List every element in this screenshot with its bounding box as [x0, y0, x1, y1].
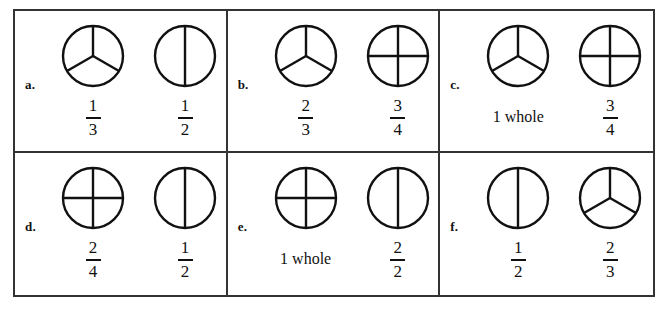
- fraction-numerator: 2: [603, 239, 618, 258]
- fraction-denominator: 4: [603, 120, 618, 139]
- fraction-figure-right: 12: [137, 165, 228, 281]
- fraction-circle-halves-icon: [470, 165, 566, 233]
- fraction-numerator: 3: [390, 97, 405, 116]
- problem-cell: a.1312: [15, 11, 228, 153]
- fraction-figure-right: 22: [350, 165, 441, 281]
- fraction-value: 23: [298, 97, 313, 139]
- figure-label: 23: [258, 97, 354, 139]
- fraction-value: 12: [511, 239, 526, 281]
- fraction-circle-halves-icon: [137, 165, 228, 233]
- fraction-figure-right: 34: [562, 23, 653, 139]
- fraction-figure-right: 23: [562, 165, 653, 281]
- fraction-value: 12: [178, 239, 193, 281]
- fraction-figure-left: 23: [258, 23, 354, 139]
- fraction-value: 23: [603, 239, 618, 281]
- problem-cell: d.2412: [15, 153, 228, 295]
- fraction-denominator: 2: [390, 262, 405, 281]
- fraction-bar: [511, 259, 526, 261]
- problem-cell: f.1223: [440, 153, 653, 295]
- fraction-numerator: 1: [86, 97, 101, 116]
- fraction-numerator: 2: [390, 239, 405, 258]
- fraction-bar: [178, 117, 193, 119]
- fraction-numerator: 2: [86, 239, 101, 258]
- fraction-circle-halves-icon: [137, 23, 228, 91]
- problem-cell: e.1 whole22: [228, 153, 441, 295]
- figure-label: 23: [562, 239, 653, 281]
- fraction-value: 22: [390, 239, 405, 281]
- figure-pair: 2334: [228, 11, 439, 151]
- figure-pair: 1 whole34: [440, 11, 653, 151]
- fraction-circle-thirds-icon: [258, 23, 354, 91]
- figure-pair: 2412: [15, 153, 226, 295]
- fraction-value: 34: [603, 97, 618, 139]
- fraction-denominator: 2: [178, 262, 193, 281]
- problem-cell: b.2334: [228, 11, 441, 153]
- figure-pair: 1312: [15, 11, 226, 151]
- fraction-numerator: 2: [298, 97, 313, 116]
- fraction-numerator: 3: [603, 97, 618, 116]
- whole-label-text: 1 whole: [493, 97, 544, 125]
- fraction-bar: [390, 117, 405, 119]
- fraction-circle-thirds-icon: [45, 23, 141, 91]
- figure-label: 22: [350, 239, 441, 281]
- fraction-bar: [298, 117, 313, 119]
- fraction-circle-quarters-icon: [45, 165, 141, 233]
- fraction-denominator: 4: [390, 120, 405, 139]
- figure-label: 1 whole: [258, 239, 354, 279]
- fraction-bar: [86, 259, 101, 261]
- fraction-numerator: 1: [178, 97, 193, 116]
- figure-label: 24: [45, 239, 141, 281]
- fraction-denominator: 2: [178, 120, 193, 139]
- fraction-value: 13: [86, 97, 101, 139]
- fraction-worksheet-grid: a.1312b.2334c.1 whole34d.2412e.1 whole22…: [13, 9, 655, 297]
- fraction-value: 24: [86, 239, 101, 281]
- figure-label: 12: [137, 239, 228, 281]
- fraction-value: 12: [178, 97, 193, 139]
- fraction-figure-left: 24: [45, 165, 141, 281]
- fraction-value: 34: [390, 97, 405, 139]
- figure-pair: 1223: [440, 153, 653, 295]
- fraction-denominator: 3: [86, 120, 101, 139]
- fraction-circle-quarters-icon: [562, 23, 653, 91]
- fraction-bar: [178, 259, 193, 261]
- fraction-denominator: 3: [298, 120, 313, 139]
- fraction-figure-left: 1 whole: [470, 23, 566, 137]
- fraction-circle-quarters-icon: [258, 165, 354, 233]
- fraction-denominator: 3: [603, 262, 618, 281]
- fraction-bar: [390, 259, 405, 261]
- figure-label: 13: [45, 97, 141, 139]
- fraction-bar: [603, 117, 618, 119]
- fraction-circle-thirds-icon: [470, 23, 566, 91]
- figure-label: 34: [562, 97, 653, 139]
- problem-cell: c.1 whole34: [440, 11, 653, 153]
- fraction-bar: [86, 117, 101, 119]
- fraction-numerator: 1: [511, 239, 526, 258]
- fraction-circle-halves-icon: [350, 165, 441, 233]
- fraction-denominator: 4: [86, 262, 101, 281]
- fraction-circle-thirds-icon: [562, 165, 653, 233]
- figure-label: 34: [350, 97, 441, 139]
- fraction-figure-left: 13: [45, 23, 141, 139]
- fraction-figure-right: 34: [350, 23, 441, 139]
- fraction-figure-left: 1 whole: [258, 165, 354, 279]
- fraction-figure-left: 12: [470, 165, 566, 281]
- fraction-figure-right: 12: [137, 23, 228, 139]
- figure-pair: 1 whole22: [228, 153, 439, 295]
- figure-label: 12: [137, 97, 228, 139]
- figure-label: 1 whole: [470, 97, 566, 137]
- fraction-circle-quarters-icon: [350, 23, 441, 91]
- fraction-bar: [603, 259, 618, 261]
- fraction-denominator: 2: [511, 262, 526, 281]
- fraction-numerator: 1: [178, 239, 193, 258]
- figure-label: 12: [470, 239, 566, 281]
- whole-label-text: 1 whole: [280, 239, 331, 267]
